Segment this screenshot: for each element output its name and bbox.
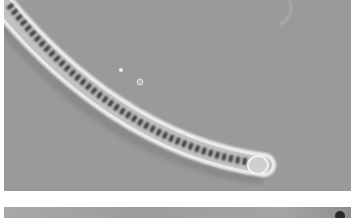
partial-panel-illustration	[4, 207, 351, 218]
micrograph-panel-bottom	[4, 207, 351, 218]
filament-illustration	[4, 0, 351, 191]
micrograph-panel-top	[4, 0, 351, 191]
